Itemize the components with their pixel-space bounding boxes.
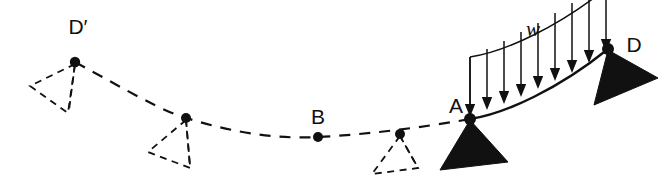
figure-canvas: D′ B A D w [0,0,670,194]
label-b: B [311,105,325,128]
node-dot-node-2 [181,113,191,123]
solid-support-triangle-d [594,50,658,105]
dashed-support-triangle-1 [30,64,75,113]
dashed-support-tick-3 [400,136,417,166]
load-arrow-head-2 [482,97,492,110]
node-dots [70,43,614,142]
node-dot-d-prime [70,57,80,67]
load-arrow-head-3 [499,91,509,104]
label-d-prime: D′ [68,15,87,38]
dashed-support-tick-2 [186,120,190,165]
label-a: A [449,94,463,117]
node-dot-d [602,43,614,55]
node-dot-a [464,113,476,125]
node-dot-node-4 [395,129,405,139]
load-arrow-head-4 [516,84,526,97]
solid-support-triangle-a [440,120,508,170]
beam-deflection-figure: D′ B A D w [0,0,670,194]
dashed-support-triangles [30,64,418,174]
label-d: D [626,33,641,56]
dashed-support-triangle-2 [148,120,190,168]
load-arrow-head-5 [533,76,543,89]
dashed-support-triangle-3 [372,136,418,174]
label-w-load: w [526,17,540,41]
load-arrow-head-7 [567,60,577,73]
deflected-shape-curve [75,62,470,137]
load-arrow-head-6 [550,68,560,81]
node-dot-b [313,132,323,142]
dashed-support-tick-1 [69,64,75,110]
